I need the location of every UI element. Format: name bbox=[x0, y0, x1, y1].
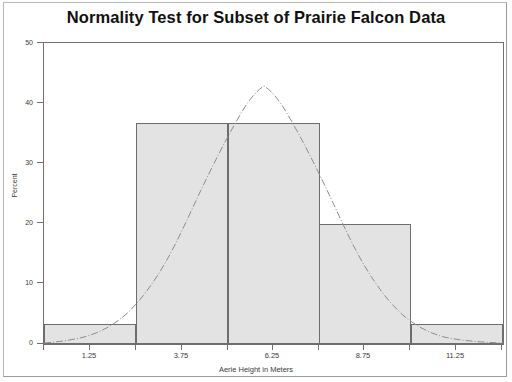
x-tick-11-25 bbox=[455, 344, 456, 350]
normal-curve-path bbox=[44, 86, 503, 343]
normal-curve-overlay bbox=[44, 43, 503, 344]
x-axis-title: Aerie Height in Meters bbox=[0, 365, 512, 374]
x-tick-label-1-25: 1.25 bbox=[67, 352, 111, 360]
x-tick-3-75 bbox=[181, 344, 182, 350]
x-tick-minor bbox=[43, 344, 44, 350]
x-tick-1-25 bbox=[89, 344, 90, 350]
y-tick-label-40: 40 bbox=[0, 99, 33, 106]
x-tick-label-8-75: 8.75 bbox=[341, 352, 385, 360]
x-tick-minor bbox=[501, 344, 502, 350]
x-tick-label-11-25: 11.25 bbox=[433, 352, 477, 360]
x-tick-label-6-25: 6.25 bbox=[250, 352, 294, 360]
plot-area bbox=[43, 42, 504, 345]
y-axis-title: Percent bbox=[11, 156, 18, 216]
y-tick-label-50: 50 bbox=[0, 39, 33, 46]
x-tick-minor bbox=[318, 344, 319, 350]
y-tick-label-0: 0 bbox=[0, 339, 33, 346]
x-tick-label-3-75: 3.75 bbox=[159, 352, 203, 360]
x-tick-minor bbox=[227, 344, 228, 350]
x-tick-minor bbox=[135, 344, 136, 350]
x-tick-minor bbox=[409, 344, 410, 350]
chart-title: Normality Test for Subset of Prairie Fal… bbox=[0, 8, 512, 27]
x-tick-6-25 bbox=[272, 344, 273, 350]
y-tick-label-20: 20 bbox=[0, 219, 33, 226]
x-tick-8-75 bbox=[363, 344, 364, 350]
y-tick-label-10: 10 bbox=[0, 279, 33, 286]
chart-screenshot: Normality Test for Subset of Prairie Fal… bbox=[0, 0, 512, 382]
